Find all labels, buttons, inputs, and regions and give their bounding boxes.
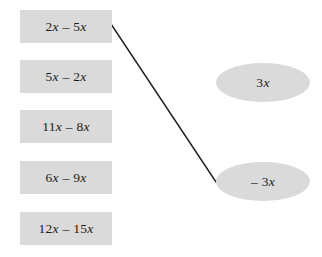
- answer-text-1: 3x: [256, 75, 269, 91]
- expression-text-1: 2x – 5x: [45, 19, 86, 35]
- expression-text-2: 5x – 2x: [45, 69, 86, 85]
- expression-box-2[interactable]: 5x – 2x: [20, 60, 112, 93]
- answer-ellipse-1[interactable]: 3x: [216, 63, 310, 102]
- answer-ellipse-2[interactable]: – 3x: [216, 162, 310, 201]
- matching-worksheet: 2x – 5x 5x – 2x 11x – 8x 6x – 9x 12x – 1…: [0, 0, 322, 257]
- connector-line-2x-minus-5x-to-minus-3x[interactable]: [111, 24, 216, 182]
- answer-text-2: – 3x: [251, 174, 275, 190]
- expression-box-4[interactable]: 6x – 9x: [20, 161, 112, 194]
- expression-box-1[interactable]: 2x – 5x: [20, 10, 112, 43]
- expression-text-3: 11x – 8x: [42, 119, 90, 135]
- expression-text-5: 12x – 15x: [38, 221, 93, 237]
- expression-text-4: 6x – 9x: [45, 170, 86, 186]
- expression-box-5[interactable]: 12x – 15x: [20, 212, 112, 245]
- expression-box-3[interactable]: 11x – 8x: [20, 110, 112, 143]
